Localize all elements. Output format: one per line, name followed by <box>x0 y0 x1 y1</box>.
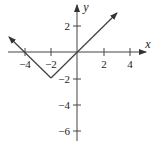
function-graph: −4 −2 2 4 2 −2 −4 −6 x y <box>0 0 156 144</box>
x-tick-label: −4 <box>19 58 31 70</box>
y-axis-label: y <box>82 0 89 14</box>
x-tick-label: 4 <box>127 58 133 70</box>
x-tick-label: 2 <box>101 58 107 70</box>
y-tick-label: −4 <box>58 99 70 111</box>
graph-line <box>51 13 117 78</box>
x-tick-label: −2 <box>45 58 57 70</box>
y-tick-label: −6 <box>58 125 70 137</box>
y-tick-label: 2 <box>65 20 71 32</box>
x-axis-label: x <box>144 37 151 51</box>
y-tick-label: −2 <box>58 73 70 85</box>
